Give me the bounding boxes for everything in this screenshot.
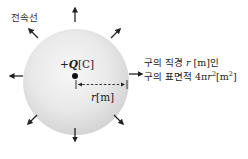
flux-arrow-up-right-icon: [111, 29, 120, 38]
desc-text: 구의 표면적: [144, 71, 195, 82]
flux-arrow-down-left-icon: [28, 115, 37, 124]
charge-label: +Q[C]: [60, 59, 94, 70]
radius-unit: [m]: [96, 91, 114, 103]
desc-coef: 4π: [195, 71, 207, 82]
desc-unit: ]: [233, 71, 237, 82]
flux-line-label: 전속선: [11, 13, 38, 23]
desc-text: 구의 직경: [144, 57, 186, 68]
charge-sign: +: [60, 58, 69, 70]
charge-unit: [C]: [78, 58, 94, 70]
desc-text: [m]인: [191, 57, 219, 68]
desc-unit: [m: [216, 71, 229, 82]
flux-arrow-up-left-icon: [29, 29, 38, 38]
charge-symbol: Q: [69, 58, 78, 70]
point-charge-dot: [72, 73, 78, 79]
sphere-radius-description: 구의 직경 r [m]인: [144, 58, 219, 68]
sphere-area-description: 구의 표면적 4πr2[m2]: [144, 72, 237, 82]
flux-arrow-down-right-icon: [114, 115, 123, 124]
radius-label: r[m]: [91, 92, 114, 103]
